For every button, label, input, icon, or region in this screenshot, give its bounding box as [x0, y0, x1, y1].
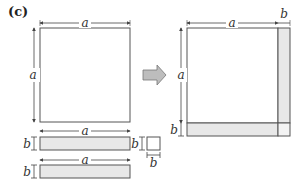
- right-label-b-side: b: [170, 123, 178, 137]
- left-square: a a: [28, 16, 130, 122]
- right-label-a-side: a: [177, 68, 184, 82]
- strip1-label-a: a: [81, 124, 88, 138]
- strip1-label-b: b: [23, 137, 31, 151]
- strip-1: a b: [23, 124, 130, 151]
- strip-2: a b: [23, 153, 130, 179]
- panel-label: (c): [8, 4, 28, 19]
- small-square-label-side: b: [131, 137, 139, 151]
- small-square-label-bottom: b: [150, 156, 158, 170]
- small-square: b b: [131, 137, 160, 170]
- right-figure: a b a b: [170, 7, 290, 137]
- right-label-b-top: b: [280, 7, 288, 21]
- figure-canvas: (c) a a a b a b b: [0, 0, 300, 184]
- strip2-label-b: b: [23, 165, 31, 179]
- transform-arrow-icon: [143, 65, 166, 85]
- label-a-top: a: [81, 16, 88, 30]
- right-label-a-top: a: [228, 16, 235, 30]
- label-a-side: a: [29, 68, 36, 82]
